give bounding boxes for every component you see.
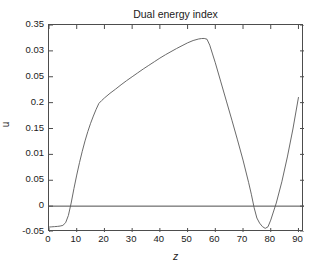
x-tick-label: 70 xyxy=(230,234,254,244)
y-tick-label: 0.05 xyxy=(26,174,45,184)
y-tick-label: 0.03 xyxy=(26,45,45,55)
y-tick-label: 0 xyxy=(39,200,44,210)
y-tick-label: 0.2 xyxy=(31,97,44,107)
y-tick-label: 0.15 xyxy=(26,123,45,133)
y-tick-label: 0.01 xyxy=(26,148,45,158)
x-tick-label: 50 xyxy=(175,234,199,244)
x-tick-label: 80 xyxy=(258,234,282,244)
x-tick-label: 10 xyxy=(64,234,88,244)
plot-svg xyxy=(49,25,304,232)
y-tick-label: 0.05 xyxy=(26,71,45,81)
axis-ticks xyxy=(49,25,304,232)
y-axis-tick-labels: 0.350.030.050.20.150.010.050-0.05 xyxy=(0,0,44,274)
x-tick-label: 0 xyxy=(36,234,60,244)
x-tick-label: 90 xyxy=(285,234,309,244)
chart-title: Dual energy index xyxy=(48,8,303,21)
plot-area xyxy=(48,24,303,231)
x-tick-label: 40 xyxy=(147,234,171,244)
x-tick-label: 30 xyxy=(119,234,143,244)
chart-figure: Dual energy index u 0.350.030.050.20.150… xyxy=(0,0,316,274)
x-tick-label: 60 xyxy=(202,234,226,244)
x-axis-label: z xyxy=(48,250,303,262)
y-tick-label: 0.35 xyxy=(26,19,45,29)
data-series-line xyxy=(49,38,298,228)
x-tick-label: 20 xyxy=(91,234,115,244)
